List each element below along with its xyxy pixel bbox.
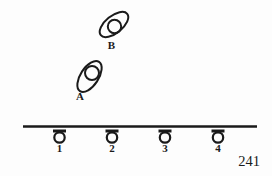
- figure: B A 1 2 3: [0, 0, 272, 176]
- cell-b: B: [95, 7, 132, 50]
- cell-a-label: A: [76, 90, 84, 102]
- hanger-2-label: 2: [109, 142, 115, 154]
- cell-b-inner-circle: [108, 20, 121, 33]
- cell-b-label: B: [108, 39, 116, 51]
- hanger-3-label: 3: [162, 142, 168, 154]
- hanger-2: 2: [106, 131, 119, 154]
- cell-a-inner-circle: [85, 66, 99, 80]
- hanger-3: 3: [159, 131, 172, 154]
- hanger-1-label: 1: [57, 142, 63, 154]
- figure-canvas: B A 1 2 3: [0, 0, 272, 176]
- cell-a: A: [72, 57, 106, 102]
- hanger-4: 4: [212, 131, 225, 154]
- hanger-4-label: 4: [215, 142, 221, 154]
- hanger-1: 1: [53, 131, 66, 154]
- cell-b-outline: [95, 7, 132, 42]
- page-number: 241: [238, 153, 260, 169]
